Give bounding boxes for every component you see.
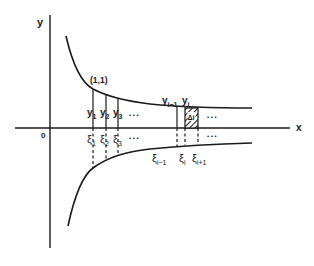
svg-text:ξ3: ξ3 [113, 133, 122, 147]
ellipsis-lower-left: • • • [129, 135, 139, 141]
ellipsis-upper-left: • • • [129, 112, 139, 118]
svg-text:ξi: ξi [179, 152, 186, 166]
lower-curve [68, 143, 252, 226]
x-axis-label: x [296, 122, 302, 133]
svg-text:ξ2: ξ2 [100, 133, 109, 147]
ellipsis-upper-right: • • • [207, 114, 217, 120]
svg-text:y1: y1 [87, 107, 97, 120]
hyperbola-partition-diagram: y x 0 (1,1) Δi y1 y2 y3 yi−1 yi ξ1 ξ2 ξ3… [0, 0, 314, 266]
shaded-cell-label: Δi [188, 114, 195, 121]
svg-text:y3: y3 [113, 107, 123, 120]
origin-label: 0 [41, 131, 46, 140]
ellipsis-lower-right: • • • [207, 133, 217, 139]
svg-text:ξi−1: ξi−1 [152, 152, 167, 166]
point-label: (1,1) [90, 75, 108, 85]
svg-text:ξ1: ξ1 [87, 133, 96, 147]
svg-text:ξi+1: ξi+1 [192, 152, 207, 166]
svg-text:y2: y2 [100, 107, 110, 120]
y-axis-label: y [37, 16, 44, 28]
upper-curve [66, 36, 252, 108]
